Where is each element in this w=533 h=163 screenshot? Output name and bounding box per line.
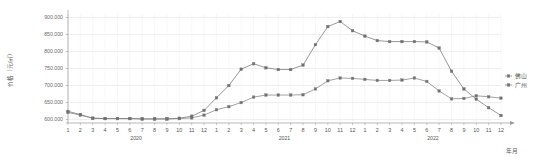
data-point-marker — [252, 96, 255, 99]
data-point-marker — [351, 77, 354, 80]
x-axis-year-label: 2020 — [130, 135, 142, 141]
data-point-marker — [228, 84, 231, 87]
x-axis-year-label: 2021 — [279, 135, 291, 141]
x-tick-label: 4 — [252, 127, 255, 133]
x-tick-label: 9 — [314, 127, 317, 133]
data-point-marker — [401, 40, 404, 43]
x-axis-arrow-head — [510, 121, 515, 125]
x-tick-label: 3 — [388, 127, 391, 133]
data-point-marker — [450, 98, 453, 101]
data-point-marker — [364, 35, 367, 38]
data-point-marker — [388, 79, 391, 82]
data-point-marker — [401, 79, 404, 82]
x-tick-label: 2 — [376, 127, 379, 133]
x-tick-label: 10 — [176, 127, 182, 133]
data-point-marker — [487, 106, 490, 109]
x-tick-label: 8 — [153, 127, 156, 133]
data-point-marker — [376, 79, 379, 82]
data-point-marker — [463, 97, 466, 100]
series-line — [68, 21, 501, 118]
x-tick-label: 8 — [450, 127, 453, 133]
data-point-marker — [67, 110, 70, 113]
data-point-marker — [339, 20, 342, 23]
series-foshan — [67, 77, 503, 120]
series-line — [68, 78, 501, 119]
data-point-marker — [438, 90, 441, 93]
x-tick-label: 11 — [486, 127, 492, 133]
x-axis-year-label: 2022 — [427, 135, 439, 141]
x-tick-label: 12 — [350, 127, 356, 133]
data-point-marker — [289, 94, 292, 97]
data-point-marker — [339, 77, 342, 80]
data-point-marker — [153, 118, 156, 121]
x-tick-label: 11 — [189, 127, 195, 133]
data-point-marker — [413, 40, 416, 43]
x-tick-label: 5 — [264, 127, 267, 133]
data-point-marker — [289, 68, 292, 71]
x-axis-year-groups: 202020212022 — [130, 135, 439, 141]
x-tick-label: 7 — [289, 127, 292, 133]
data-point-marker — [327, 79, 330, 82]
data-point-marker — [91, 117, 94, 120]
x-tick-label: 3 — [240, 127, 243, 133]
legend-label: 佛山 — [515, 72, 527, 80]
x-tick-label: 1 — [215, 127, 218, 133]
data-point-marker — [450, 70, 453, 73]
legend-point-marker — [507, 84, 510, 87]
grid-lines — [68, 14, 501, 123]
y-tick-label: 900.000 — [44, 14, 63, 20]
data-point-marker — [487, 95, 490, 98]
data-point-marker — [475, 98, 478, 101]
data-point-marker — [277, 68, 280, 71]
x-tick-label: 9 — [165, 127, 168, 133]
data-point-marker — [141, 118, 144, 121]
x-tick-label: 4 — [401, 127, 404, 133]
x-axis-ticks: 1234567891011121234567891011121234567891… — [67, 123, 505, 133]
data-point-marker — [252, 62, 255, 65]
data-point-marker — [277, 94, 280, 97]
y-tick-label: 750.000 — [44, 65, 63, 71]
data-point-marker — [178, 117, 181, 120]
data-point-marker — [463, 88, 466, 91]
legend: 佛山广州 — [505, 72, 527, 89]
x-tick-label: 12 — [498, 127, 504, 133]
data-point-marker — [438, 47, 441, 50]
y-tick-label: 700.000 — [44, 82, 63, 88]
data-point-marker — [376, 39, 379, 42]
price-trend-chart: 600.000650.000700.000750.000800.000850.0… — [0, 0, 533, 163]
x-tick-label: 1 — [67, 127, 70, 133]
data-point-marker — [500, 97, 503, 100]
data-point-marker — [314, 43, 317, 46]
y-axis-ticks: 600.000650.000700.000750.000800.000850.0… — [44, 14, 68, 122]
legend-point-marker — [507, 75, 510, 78]
data-point-marker — [265, 94, 268, 97]
x-tick-label: 2 — [227, 127, 230, 133]
data-point-marker — [314, 88, 317, 91]
data-point-marker — [203, 109, 206, 112]
x-tick-label: 5 — [116, 127, 119, 133]
x-axis-title: 年月 — [506, 147, 518, 155]
x-tick-label: 10 — [473, 127, 479, 133]
y-tick-label: 650.000 — [44, 99, 63, 105]
chart-canvas: 600.000650.000700.000750.000800.000850.0… — [0, 0, 533, 163]
x-tick-label: 5 — [413, 127, 416, 133]
x-tick-label: 12 — [201, 127, 207, 133]
data-point-marker — [327, 25, 330, 28]
x-tick-label: 1 — [363, 127, 366, 133]
data-point-marker — [240, 101, 243, 104]
data-point-marker — [166, 118, 169, 121]
y-tick-label: 600.000 — [44, 116, 63, 122]
y-tick-label: 850.000 — [44, 31, 63, 37]
x-tick-label: 3 — [91, 127, 94, 133]
data-point-marker — [425, 80, 428, 83]
data-point-marker — [228, 105, 231, 108]
data-point-marker — [215, 96, 218, 99]
x-tick-label: 10 — [325, 127, 331, 133]
x-tick-label: 6 — [425, 127, 428, 133]
x-tick-label: 9 — [462, 127, 465, 133]
x-tick-label: 2 — [79, 127, 82, 133]
data-point-marker — [425, 41, 428, 44]
data-point-marker — [475, 94, 478, 97]
data-point-marker — [240, 68, 243, 71]
x-tick-label: 7 — [141, 127, 144, 133]
